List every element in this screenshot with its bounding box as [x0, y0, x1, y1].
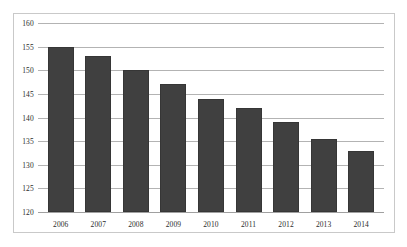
bar	[85, 56, 111, 212]
bar-chart: 160155150145140135130125120 200620072008…	[13, 13, 395, 233]
bar	[311, 139, 337, 212]
bar-series	[38, 23, 384, 212]
y-axis-tick-label: 120	[22, 208, 34, 217]
bar-slot	[236, 23, 262, 212]
x-axis-tick-label: 2012	[273, 220, 299, 229]
x-axis-tick-label: 2007	[85, 220, 111, 229]
x-axis-tick-label: 2013	[311, 220, 337, 229]
bar	[198, 99, 224, 212]
bar	[48, 47, 74, 212]
plot-area: 160155150145140135130125120	[38, 23, 384, 212]
y-axis-tick-label: 145	[22, 89, 34, 98]
y-axis-tick-label: 125	[22, 184, 34, 193]
bar	[160, 84, 186, 212]
x-axis-tick-label: 2011	[236, 220, 262, 229]
y-axis-tick-label: 150	[22, 66, 34, 75]
y-axis-tick-label: 160	[22, 19, 34, 28]
x-axis-tick-label: 2006	[48, 220, 74, 229]
x-axis-tick-label: 2008	[123, 220, 149, 229]
bar	[236, 108, 262, 212]
gridline: 120	[38, 212, 384, 213]
bar-slot	[160, 23, 186, 212]
bar-slot	[48, 23, 74, 212]
bar-slot	[123, 23, 149, 212]
bar	[273, 122, 299, 212]
bar-slot	[85, 23, 111, 212]
bar-slot	[311, 23, 337, 212]
y-axis-tick-label: 135	[22, 137, 34, 146]
bar-slot	[273, 23, 299, 212]
y-axis-tick-label: 140	[22, 113, 34, 122]
x-axis-tick-label: 2010	[198, 220, 224, 229]
bar	[348, 151, 374, 212]
bar-slot	[198, 23, 224, 212]
x-axis-tick-label: 2014	[348, 220, 374, 229]
x-axis-tick-label: 2009	[160, 220, 186, 229]
y-axis-tick-label: 130	[22, 160, 34, 169]
y-axis-tick-label: 155	[22, 42, 34, 51]
bar	[123, 70, 149, 212]
bar-slot	[348, 23, 374, 212]
x-axis-labels: 200620072008200920102011201220132014	[38, 220, 384, 229]
